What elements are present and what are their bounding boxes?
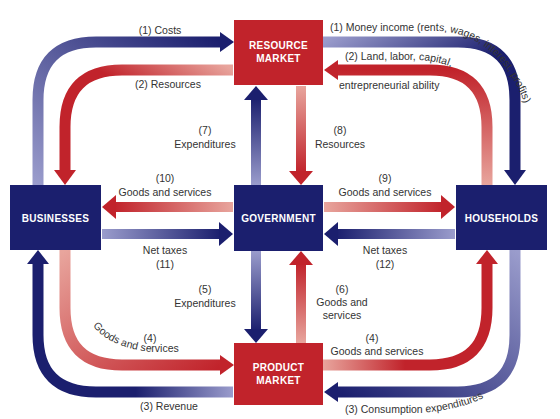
goods-right-arrowhead — [476, 250, 498, 264]
expenditures-7-arrowhead — [244, 86, 268, 100]
expenditures-5-shaft — [251, 251, 261, 331]
net-taxes-11-shaft — [102, 229, 221, 239]
resources-8-shaft — [296, 86, 306, 173]
expenditures-7-label: Expenditures — [174, 138, 235, 150]
goods-9-label: Goods and services — [339, 186, 432, 198]
goods-6-number: (6) — [336, 283, 349, 295]
resources-arrowhead — [54, 170, 76, 185]
goods-left-arrowhead — [220, 355, 234, 375]
resource-market-box: RESOURCE MARKET — [234, 20, 323, 85]
land-labor-arrowhead — [324, 60, 338, 80]
resource-market-label-line2: MARKET — [256, 53, 301, 64]
net-taxes-12-number: (12) — [376, 258, 395, 270]
net-taxes-11-arrowhead — [219, 222, 233, 246]
net-taxes-12-shaft — [336, 229, 455, 239]
goods-4-left-label: Goods and services — [91, 319, 178, 354]
expenditures-5-arrowhead — [244, 329, 268, 343]
goods-6-label-line2: services — [323, 309, 362, 321]
net-taxes-12-label: Net taxes — [363, 244, 407, 256]
expenditures-5-number: (5) — [199, 283, 212, 295]
goods-9-arrowhead — [441, 195, 455, 219]
goods-6-label-line1: Goods and — [316, 296, 368, 308]
businesses-label: BUSINESSES — [22, 213, 89, 224]
businesses-box: BUSINESSES — [10, 185, 101, 250]
expenditures-7-number: (7) — [199, 124, 212, 136]
expenditures-5-label: Expenditures — [174, 297, 235, 309]
net-taxes-11-label: Net taxes — [143, 244, 187, 256]
government-box: GOVERNMENT — [234, 185, 323, 251]
goods-4-right-number: (4) — [366, 332, 379, 344]
costs-label: (1) Costs — [139, 24, 182, 36]
product-market-box: PRODUCT MARKET — [234, 343, 323, 405]
net-taxes-12-arrowhead — [324, 222, 338, 246]
net-taxes-11-number: (11) — [156, 258, 174, 270]
costs-arrowhead — [220, 32, 234, 52]
goods-9-number: (9) — [379, 172, 392, 184]
goods-6-arrowhead — [289, 251, 313, 265]
goods-4-right-label: Goods and services — [331, 345, 424, 357]
resources-8-arrowhead — [289, 171, 313, 185]
expenditures-7-shaft — [251, 98, 261, 185]
resources-8-number: (8) — [334, 124, 347, 136]
households-box: HOUSEHOLDS — [456, 185, 547, 250]
goods-10-shaft — [114, 202, 233, 212]
product-market-label-line1: PRODUCT — [253, 362, 305, 373]
goods-6-shaft — [296, 263, 306, 343]
resource-market-label-line1: RESOURCE — [249, 40, 308, 51]
money-income-arrowhead — [504, 170, 526, 185]
resources-2-label: (2) Resources — [135, 78, 201, 90]
consumption-arrowhead — [324, 382, 338, 402]
goods-10-label: Goods and services — [119, 186, 212, 198]
government-label: GOVERNMENT — [241, 213, 316, 224]
revenue-arrowhead — [27, 250, 49, 264]
goods-9-shaft — [324, 202, 443, 212]
circular-flow-diagram: RESOURCE MARKET PRODUCT MARKET BUSINESSE… — [0, 0, 560, 419]
goods-10-arrowhead — [102, 195, 116, 219]
goods-4-left-label-path: Goods and services — [91, 319, 178, 354]
land-labor-label-line2: entrepreneurial ability — [339, 79, 440, 91]
goods-10-number: (10) — [156, 172, 175, 184]
product-market-label-line2: MARKET — [256, 375, 301, 386]
revenue-label: (3) Revenue — [140, 400, 198, 412]
resources-8-label: Resources — [315, 138, 365, 150]
households-label: HOUSEHOLDS — [465, 213, 539, 224]
